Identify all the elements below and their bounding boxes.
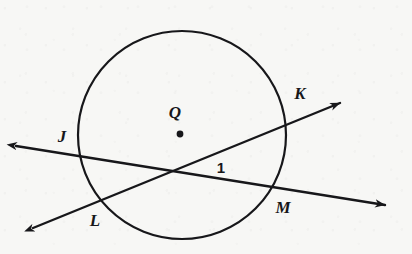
secant-line-JM [16,146,385,205]
label-center-q: Q [169,104,181,121]
label-point-k: K [294,85,305,102]
center-point-dot [177,131,184,138]
label-point-l: L [90,212,100,229]
label-point-m: M [275,199,290,216]
label-angle-1: 1 [217,160,225,175]
geometry-diagram-canvas: J K L M Q 1 [0,0,412,254]
label-point-j: J [58,128,67,145]
